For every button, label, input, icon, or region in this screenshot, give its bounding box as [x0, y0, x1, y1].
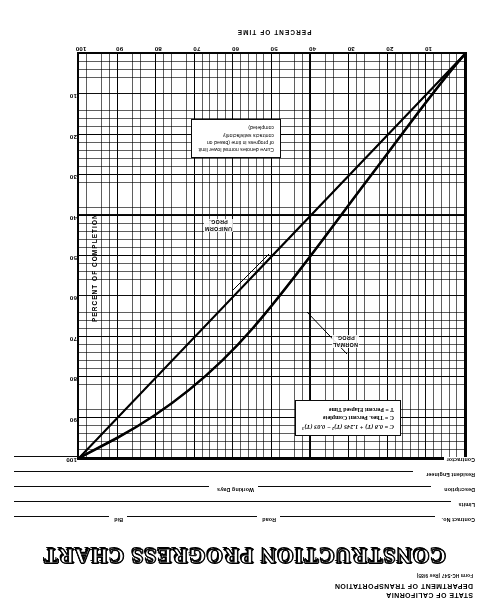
x-axis-title: PERCENT OF TIME [59, 29, 489, 36]
curve-label-normal-progress: NORMAL PROG. [332, 335, 359, 348]
x-tick-20: 20 [386, 46, 393, 53]
x-tick-70: 70 [193, 46, 200, 53]
x-tick-100: 100 [76, 46, 87, 53]
x-tick-40: 40 [309, 46, 316, 53]
x-tick-80: 80 [155, 46, 162, 53]
agency-heading: STATE OF CALIFORNIA DEPARTMENT OF TRANSP… [334, 582, 473, 600]
y-tick-40: 40 [70, 214, 77, 221]
y-tick-100: 100 [66, 457, 77, 464]
note-line-3: contracts satisfactorily [198, 131, 274, 138]
note-line-1: Curve denotes normal lower limit [198, 146, 274, 153]
field-row-resident-engineer: Resident Engineer [14, 470, 475, 485]
y-tick-90: 90 [70, 416, 77, 423]
curve-label-normal-line-1: NORMAL [333, 341, 358, 348]
formula-box: C = 0.8 (T) + 1.245 (T)² − 0.03 (T)³ C =… [295, 400, 401, 436]
chart-curves [79, 54, 465, 458]
field-label-road: Road [260, 517, 276, 523]
x-tick-10: 10 [425, 46, 432, 53]
y-tick-30: 30 [70, 174, 77, 181]
field-input-bid[interactable] [14, 516, 109, 517]
note-line-2: of progress in time (based on [198, 139, 274, 146]
y-tick-80: 80 [70, 376, 77, 383]
formula-legend-c: C = Theo. Percent Complete [302, 414, 394, 423]
field-label-limits: Limits [457, 502, 476, 508]
curve-label-normal-line-2: PROG. [333, 335, 358, 342]
chart-plot-area: C = 0.8 (T) + 1.245 (T)² − 0.03 (T)³ C =… [77, 52, 467, 460]
curve-uniform-progress [79, 54, 465, 458]
field-label-working-days: Working Days [215, 487, 254, 493]
x-tick-50: 50 [270, 46, 277, 53]
curve-label-uniform-progress: UNIFORM PROG. [204, 219, 233, 232]
y-tick-50: 50 [70, 255, 77, 262]
y-tick-60: 60 [70, 295, 77, 302]
field-label-contractor: Contractor [444, 457, 475, 463]
y-tick-10: 10 [70, 93, 77, 100]
field-input-limits[interactable] [14, 501, 451, 502]
x-tick-90: 90 [116, 46, 123, 53]
progress-chart: C = 0.8 (T) + 1.245 (T)² − 0.03 (T)³ C =… [0, 10, 489, 472]
field-row-description-working-days: Description Working Days [14, 485, 475, 500]
agency-line-2: DEPARTMENT OF TRANSPORTATION [334, 582, 473, 591]
field-row-limits: Limits [14, 500, 475, 515]
leader-line-uniform [233, 254, 269, 290]
note-box: Curve denotes normal lower limit of prog… [191, 119, 281, 158]
field-input-description[interactable] [258, 486, 431, 487]
field-label-description: Description [442, 487, 475, 493]
page-title: CONSTRUCTION PROGRESS CHART [0, 543, 489, 568]
y-axis-title: PERCENT OF COMPLETION [91, 213, 98, 322]
field-row-contract-road-bid: Contract No. Road Bid [14, 515, 475, 530]
x-tick-30: 30 [348, 46, 355, 53]
y-tick-70: 70 [70, 335, 77, 342]
field-input-working-days[interactable] [14, 486, 209, 487]
formula-legend-t: T = Percent Elapsed Time [302, 405, 394, 414]
field-label-bid: Bid [112, 517, 123, 523]
note-line-4: completed) [198, 124, 274, 131]
formula-equation: C = 0.8 (T) + 1.245 (T)² − 0.03 (T)³ [302, 422, 394, 431]
curve-label-uniform-line-1: UNIFORM [205, 225, 232, 232]
form-number: Form HC-S47 (Rev 9/85) [417, 573, 473, 578]
y-tick-20: 20 [70, 133, 77, 140]
field-input-contract-no[interactable] [280, 516, 435, 517]
x-tick-60: 60 [232, 46, 239, 53]
curve-label-uniform-line-2: PROG. [205, 219, 232, 226]
scanned-form-sheet: STATE OF CALIFORNIA DEPARTMENT OF TRANSP… [0, 0, 489, 614]
agency-line-1: STATE OF CALIFORNIA [334, 591, 473, 600]
field-input-road[interactable] [127, 516, 257, 517]
field-label-contract-no: Contract No. [439, 517, 475, 523]
field-label-resident-engineer: Resident Engineer [424, 472, 475, 478]
